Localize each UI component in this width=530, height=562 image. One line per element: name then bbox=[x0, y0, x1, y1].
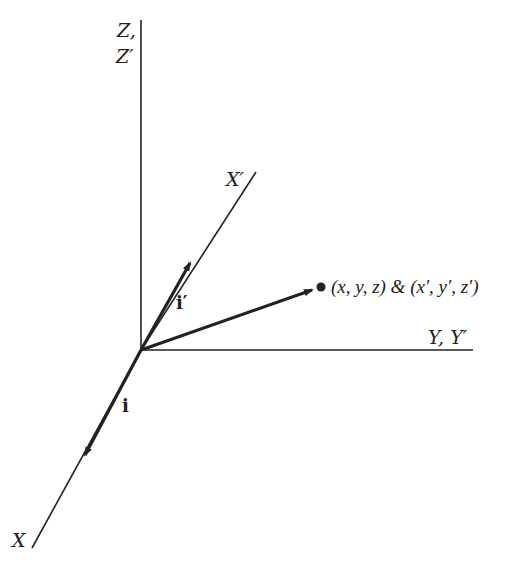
x-axis-label: X bbox=[12, 531, 26, 550]
y-axis-label: Y, Y′ bbox=[428, 328, 467, 347]
z-prime-axis-label: Z′ bbox=[116, 47, 134, 66]
i-vector bbox=[85, 350, 141, 455]
z-axis-label: Z, bbox=[117, 21, 136, 40]
point-coordinates-label: (x, y, z) & (x′, y′, z′) bbox=[331, 277, 479, 296]
x-prime-axis-label: X′ bbox=[226, 170, 244, 189]
position-vector bbox=[141, 290, 312, 350]
x-prime-axis bbox=[141, 172, 256, 350]
i-prime-vector-label: i′ bbox=[176, 294, 188, 312]
i-vector-label: i bbox=[122, 397, 129, 415]
point-marker bbox=[317, 283, 326, 292]
